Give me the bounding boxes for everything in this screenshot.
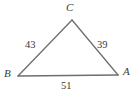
vertex-label-c: C [66, 2, 73, 13]
side-ca-line [72, 20, 118, 75]
vertex-label-a: A [123, 66, 130, 77]
side-ab-line [18, 75, 118, 76]
side-length-label-bc: 43 [25, 40, 36, 51]
triangle-figure: C B A 43 39 51 [0, 0, 137, 99]
side-length-label-ab: 51 [61, 81, 72, 92]
vertex-label-b: B [4, 68, 11, 79]
side-length-label-ca: 39 [97, 40, 108, 51]
